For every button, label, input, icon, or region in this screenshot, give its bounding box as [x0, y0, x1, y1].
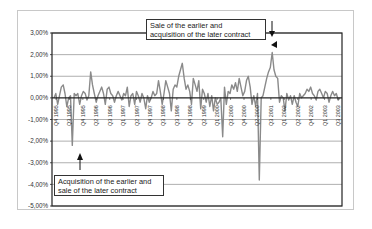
annotation-bottom-line2: sale of the later contract	[58, 186, 160, 195]
annotation-top: Sale of the earlier and acquisition of t…	[146, 19, 266, 40]
y-axis-labels: 3,00%2,00%1,00%0,00%-1,00%-2,00%-3,00%-4…	[28, 29, 48, 209]
x-tick-label: Q4 2002	[308, 105, 314, 126]
x-tick-label: Q2 2002	[295, 105, 301, 126]
y-tick-label: -1,00%	[28, 116, 48, 123]
y-tick-label: 1,00%	[30, 72, 48, 79]
annotation-top-line2: acquisition of the later contract	[150, 30, 262, 39]
x-tick-label: Q3 1998	[160, 105, 166, 126]
x-tick-label: Q3 1995	[66, 105, 72, 126]
x-tick-label: Q3 1996	[107, 105, 113, 126]
y-tick-label: 0,00%	[30, 94, 48, 101]
x-tick-label: Q2 2000	[254, 105, 260, 126]
x-tick-label: Q1 2002	[281, 105, 287, 126]
x-tick-label: Q3 2003	[335, 105, 341, 126]
x-tick-label: Q2 1996	[93, 105, 99, 126]
x-tick-label: Q4 1997	[147, 105, 153, 126]
x-tick-label: Q1 1997	[120, 105, 126, 126]
x-tick-label: Q1 2003	[322, 105, 328, 126]
x-tick-label: Q4 1995	[80, 105, 86, 126]
annotation-bottom: Acquisition of the earlier and sale of t…	[54, 175, 164, 196]
y-tick-label: 2,00%	[30, 51, 48, 58]
x-tick-label: Q4 1995	[53, 105, 59, 126]
y-tick-label: 3,00%	[30, 29, 48, 36]
x-tick-label: Q4 2000	[241, 105, 247, 126]
annotation-bottom-line1: Acquisition of the earlier and	[58, 177, 160, 186]
annotation-top-line1: Sale of the earlier and	[150, 21, 262, 30]
x-tick-label: Q3 1998	[174, 105, 180, 126]
x-tick-label: Q2 1997	[134, 105, 140, 126]
x-tick-label: Q4 1998	[187, 105, 193, 126]
x-tick-label: Q3 2001	[268, 105, 274, 126]
y-tick-label: -2,00%	[28, 137, 48, 144]
x-tick-label: Q2 1999	[201, 105, 207, 126]
y-tick-label: -3,00%	[28, 159, 48, 166]
x-tick-label: Q1 2000	[214, 105, 220, 126]
y-tick-label: -5,00%	[28, 202, 48, 209]
x-tick-label: Q3 2000	[228, 105, 234, 126]
y-tick-label: -4,00%	[28, 181, 48, 188]
